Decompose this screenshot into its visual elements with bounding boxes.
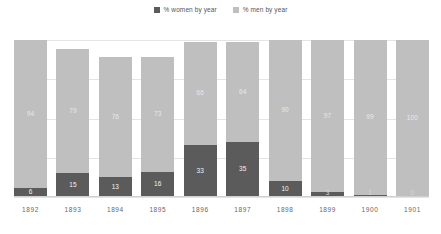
bar-segment-women[interactable]: 10 [269, 181, 302, 197]
bar-segment-men[interactable]: 76 [99, 57, 132, 176]
bar-column[interactable]: 973 [311, 40, 344, 197]
bar-segment-men[interactable]: 79 [56, 49, 89, 173]
bar-segment-men[interactable]: 99 [354, 40, 387, 195]
bar-value-label-men: 97 [324, 113, 331, 120]
bar-segment-men[interactable]: 97 [311, 40, 344, 192]
bar-value-label-men: 94 [27, 111, 34, 118]
bar-column[interactable]: 7316 [141, 40, 174, 197]
bar-segment-men[interactable]: 100 [396, 40, 429, 197]
bar-value-label-men: 90 [281, 107, 288, 114]
bar-value-label-men: 100 [407, 115, 418, 122]
bar-value-label-women: 6 [29, 189, 33, 196]
bar-column[interactable]: 946 [14, 40, 47, 197]
bar-column[interactable]: 6633 [184, 40, 217, 197]
x-axis-tick-label: 1894 [99, 200, 132, 213]
bar-column[interactable]: 6435 [226, 40, 259, 197]
bar-value-label-women: 13 [112, 184, 119, 191]
bar-segment-men[interactable]: 94 [14, 40, 47, 188]
x-axis-tick-label: 1898 [269, 200, 302, 213]
bar-segment-men[interactable]: 66 [184, 42, 217, 146]
x-axis-tick-label: 1895 [141, 200, 174, 213]
x-axis-line [14, 196, 429, 197]
bar-value-label-women: 10 [281, 186, 288, 193]
bar-value-label-women: 15 [69, 182, 76, 189]
x-axis-tick-label: 1897 [226, 200, 259, 213]
x-axis-tick-label: 1892 [14, 200, 47, 213]
legend-label: % men by year [243, 6, 288, 13]
legend-label: % women by year [164, 6, 217, 13]
bar-value-label-men: 99 [366, 114, 373, 121]
legend-swatch-men [233, 7, 239, 13]
bar-value-label-men: 76 [112, 114, 119, 121]
bar-segment-women[interactable]: 16 [141, 172, 174, 197]
legend-entry[interactable]: % women by year [154, 6, 217, 13]
x-axis-tick-label: 1900 [354, 200, 387, 213]
bar-value-label-men: 66 [197, 90, 204, 97]
bar-segment-women[interactable]: 13 [99, 177, 132, 197]
bar-segment-women[interactable]: 15 [56, 173, 89, 197]
bar-segment-men[interactable]: 90 [269, 40, 302, 181]
bar-value-label-men: 79 [69, 108, 76, 115]
bar-group: 9467915761373166633643590109739911000 [14, 40, 429, 197]
bar-value-label-men: 64 [239, 89, 246, 96]
bar-value-label-women: 16 [154, 181, 161, 188]
x-axis-tick-label: 1901 [396, 200, 429, 213]
legend-entry[interactable]: % men by year [233, 6, 288, 13]
bar-value-label-women: 35 [239, 166, 246, 173]
plot-area: 9467915761373166633643590109739911000 [14, 40, 429, 197]
bar-segment-women[interactable]: 35 [226, 142, 259, 197]
bar-column[interactable]: 7613 [99, 40, 132, 197]
legend-swatch-women [154, 7, 160, 13]
bar-segment-men[interactable]: 73 [141, 57, 174, 172]
x-axis-tick-label: 1893 [56, 200, 89, 213]
bar-value-label-women: 33 [197, 168, 204, 175]
bar-column[interactable]: 1000 [396, 40, 429, 197]
bar-value-label-men: 73 [154, 111, 161, 118]
bar-column[interactable]: 7915 [56, 40, 89, 197]
chart-legend: % women by year% men by year [0, 6, 441, 13]
bar-segment-women[interactable]: 33 [184, 145, 217, 197]
stacked-bar-chart: % women by year% men by year 94679157613… [0, 0, 441, 234]
bar-segment-men[interactable]: 64 [226, 42, 259, 142]
x-axis-ticks: 1892189318941895189618971898189919001901 [14, 200, 429, 213]
bar-column[interactable]: 991 [354, 40, 387, 197]
bar-column[interactable]: 9010 [269, 40, 302, 197]
x-axis-tick-label: 1896 [184, 200, 217, 213]
gridline [14, 197, 429, 198]
x-axis-tick-label: 1899 [311, 200, 344, 213]
